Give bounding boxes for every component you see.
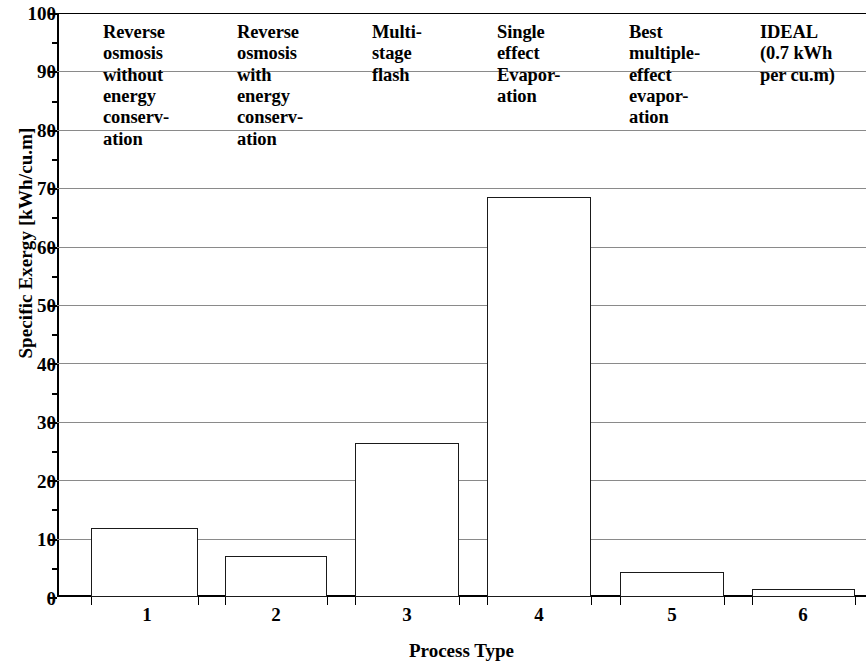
x-axis-title: Process Type (57, 640, 866, 662)
bar-5 (620, 572, 724, 597)
x-tick-label-4: 4 (509, 604, 569, 626)
annotation-process-4: Single effect Evapor- ation (497, 22, 560, 107)
bar-1 (91, 528, 198, 597)
bar-chart-figure: Specific Exergy [kWh/cu.m] 100 90 80 70 … (0, 0, 866, 667)
bar-2 (225, 556, 327, 597)
x-tick-label-2: 2 (246, 604, 306, 626)
y-tick-minor-5 (52, 568, 57, 570)
bar-3 (355, 443, 459, 597)
annotation-process-3: Multi- stage flash (372, 22, 422, 86)
y-tick-minor-85 (52, 101, 57, 103)
x-tick-label-1: 1 (117, 604, 177, 626)
annotation-process-1: Reverse osmosis without energy conserv- … (103, 22, 169, 150)
y-tick-minor-15 (52, 509, 57, 511)
y-tick-mark-40 (49, 363, 57, 365)
y-tick-mark-100 (49, 13, 57, 15)
x-tick-mark-2-right (327, 597, 328, 605)
y-tick-mark-80 (49, 130, 57, 132)
x-tick-mark-4-left (487, 597, 488, 605)
annotation-process-6: IDEAL (0.7 kWh per cu.m) (760, 22, 835, 86)
annotation-process-5: Best multiple- effect evapor- ation (629, 22, 700, 129)
y-tick-mark-90 (49, 71, 57, 73)
x-tick-mark-4-right (591, 597, 592, 605)
x-tick-label-6: 6 (773, 604, 833, 626)
bar-4 (487, 197, 591, 597)
gridline-30 (57, 422, 866, 423)
gridline-40 (57, 363, 866, 364)
x-tick-mark-6-right (855, 597, 856, 605)
y-tick-minor-95 (52, 42, 57, 44)
x-tick-mark-2-left (225, 597, 226, 605)
y-tick-mark-60 (49, 247, 57, 249)
y-tick-minor-45 (52, 334, 57, 336)
y-tick-mark-30 (49, 422, 57, 424)
gridline-70 (57, 188, 866, 189)
y-tick-mark-50 (49, 305, 57, 307)
x-tick-mark-1-right (198, 597, 199, 605)
y-tick-mark-0 (49, 597, 57, 599)
x-tick-label-5: 5 (642, 604, 702, 626)
gridline-80 (57, 130, 866, 131)
annotation-process-2: Reverse osmosis with energy conserv- ati… (237, 22, 303, 150)
y-tick-minor-55 (52, 276, 57, 278)
y-tick-mark-10 (49, 539, 57, 541)
y-tick-minor-65 (52, 217, 57, 219)
x-tick-mark-1-left (91, 597, 92, 605)
y-tick-mark-70 (49, 188, 57, 190)
x-tick-mark-3-left (355, 597, 356, 605)
y-tick-minor-35 (52, 393, 57, 395)
x-tick-mark-6-left (752, 597, 753, 605)
y-tick-mark-20 (49, 480, 57, 482)
gridline-90 (57, 71, 866, 72)
x-tick-mark-5-right (724, 597, 725, 605)
plot-area: Reverse osmosis without energy conserv- … (57, 13, 866, 597)
gridline-50 (57, 305, 866, 306)
x-tick-label-3: 3 (377, 604, 437, 626)
x-tick-mark-5-left (620, 597, 621, 605)
y-tick-minor-75 (52, 159, 57, 161)
gridline-60 (57, 247, 866, 248)
bar-6 (752, 589, 855, 597)
gridline-20 (57, 480, 866, 481)
x-tick-mark-3-right (459, 597, 460, 605)
y-tick-minor-25 (52, 451, 57, 453)
